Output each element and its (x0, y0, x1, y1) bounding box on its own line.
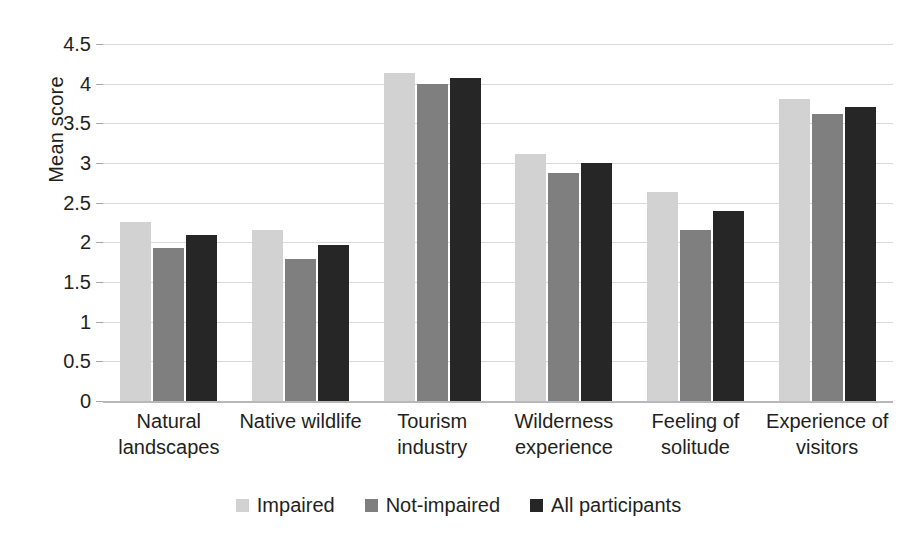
bar-group (235, 44, 367, 401)
legend-swatch-icon (365, 499, 378, 512)
y-tick-mark (96, 401, 103, 402)
y-tick-mark (96, 322, 103, 323)
y-tick-label: 1 (80, 310, 91, 333)
legend-item[interactable]: Not-impaired (365, 494, 500, 517)
legend-item[interactable]: Impaired (236, 494, 335, 517)
x-axis-line (103, 401, 893, 403)
bar-group (630, 44, 762, 401)
y-tick-mark (96, 163, 103, 164)
chart-legend: ImpairedNot-impairedAll participants (0, 494, 917, 517)
y-tick-label: 2.5 (63, 191, 91, 214)
plot-area: 00.511.522.533.544.5 (103, 44, 893, 401)
y-tick-mark (96, 282, 103, 283)
bar[interactable] (252, 230, 283, 401)
bar[interactable] (812, 114, 843, 401)
bar[interactable] (285, 259, 316, 401)
x-tick-label: Experience of visitors (761, 408, 893, 460)
bar[interactable] (450, 78, 481, 401)
bar-group (498, 44, 630, 401)
bar[interactable] (713, 211, 744, 401)
legend-item[interactable]: All participants (530, 494, 681, 517)
y-tick-mark (96, 361, 103, 362)
bar[interactable] (845, 107, 876, 401)
x-tick-label: Tourism industry (366, 408, 498, 460)
y-tick-mark (96, 123, 103, 124)
x-tick-label: Natural landscapes (103, 408, 235, 460)
bar[interactable] (120, 222, 151, 401)
bar[interactable] (318, 245, 349, 401)
x-axis-category-labels: Natural landscapesNative wildlifeTourism… (103, 408, 893, 460)
bar-group (366, 44, 498, 401)
y-tick-label: 0 (80, 390, 91, 413)
bar[interactable] (647, 192, 678, 401)
y-tick-label: 3 (80, 152, 91, 175)
y-tick-mark (96, 242, 103, 243)
x-tick-label: Feeling of solitude (630, 408, 762, 460)
bar[interactable] (581, 163, 612, 401)
bar[interactable] (548, 173, 579, 401)
x-tick-label: Native wildlife (235, 408, 367, 460)
y-tick-label: 1.5 (63, 271, 91, 294)
y-tick-label: 0.5 (63, 350, 91, 373)
x-tick-label: Wilderness experience (498, 408, 630, 460)
y-tick-label: 4.5 (63, 33, 91, 56)
legend-label: Not-impaired (386, 494, 500, 517)
legend-label: Impaired (257, 494, 335, 517)
bar-group (761, 44, 893, 401)
legend-swatch-icon (530, 499, 543, 512)
bar[interactable] (417, 84, 448, 401)
bar-groups (103, 44, 893, 401)
y-tick-label: 4 (80, 72, 91, 95)
bar-group (103, 44, 235, 401)
bar[interactable] (779, 99, 810, 401)
bar[interactable] (186, 235, 217, 401)
legend-label: All participants (551, 494, 681, 517)
bar[interactable] (384, 73, 415, 401)
y-tick-label: 2 (80, 231, 91, 254)
y-tick-mark (96, 84, 103, 85)
bar[interactable] (680, 230, 711, 401)
y-tick-mark (96, 44, 103, 45)
legend-swatch-icon (236, 499, 249, 512)
y-tick-mark (96, 203, 103, 204)
y-tick-label: 3.5 (63, 112, 91, 135)
bar-chart: Mean score 00.511.522.533.544.5 Natural … (0, 0, 917, 548)
bar[interactable] (515, 154, 546, 401)
bar[interactable] (153, 248, 184, 401)
